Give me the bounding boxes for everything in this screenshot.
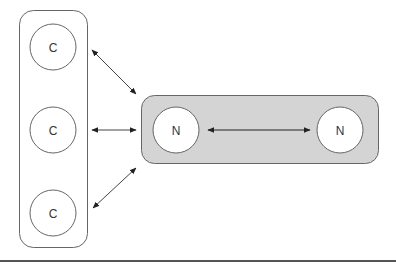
- client1-server-arrow: [92, 50, 136, 94]
- client-node-label: C: [49, 207, 58, 221]
- client-group: C C C: [20, 11, 88, 248]
- client-node-3: C: [30, 190, 76, 236]
- server-node-label: N: [172, 124, 181, 138]
- server-node-label: N: [336, 124, 345, 138]
- server-group: N N: [142, 96, 379, 164]
- client-node-2: C: [30, 107, 76, 153]
- server-node-2: N: [317, 107, 363, 153]
- server-node-1: N: [153, 107, 199, 153]
- client-node-1: C: [30, 24, 76, 70]
- client-node-label: C: [49, 124, 58, 138]
- diagram-canvas: C C C N N: [0, 0, 396, 265]
- client3-server-arrow: [93, 168, 136, 208]
- client-node-label: C: [49, 41, 58, 55]
